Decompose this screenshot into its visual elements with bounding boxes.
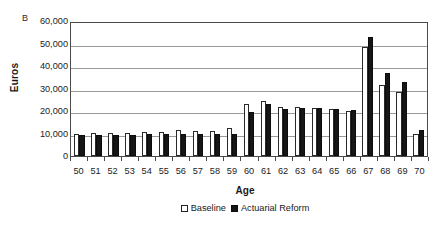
bar-group <box>393 23 410 156</box>
bar-reform <box>317 108 322 156</box>
bar-reform <box>147 134 152 156</box>
x-tick-label: 59 <box>223 163 240 179</box>
bar-reform <box>402 82 407 156</box>
x-tick-label: 51 <box>87 163 104 179</box>
x-tick-mark <box>172 157 173 161</box>
y-tick-label: 20,000 <box>24 107 68 116</box>
x-axis-tick-marks <box>70 157 428 162</box>
y-tick-label: 30,000 <box>24 85 68 94</box>
bar-group <box>139 23 156 156</box>
x-tick-mark <box>155 157 156 161</box>
legend-label: Actuarial Reform <box>241 203 309 213</box>
x-tick-mark <box>223 157 224 161</box>
x-axis-label: Age <box>60 185 430 196</box>
bar-group <box>224 23 241 156</box>
x-tick-mark <box>309 157 310 161</box>
x-tick-label: 56 <box>172 163 189 179</box>
x-tick-mark <box>394 157 395 161</box>
bar-group <box>71 23 88 156</box>
y-tick-label: 50,000 <box>24 40 68 49</box>
x-tick-label: 69 <box>394 163 411 179</box>
bar-reform <box>164 134 169 156</box>
bar-groups <box>71 23 427 156</box>
bar-group <box>342 23 359 156</box>
legend-item: Baseline <box>181 203 226 213</box>
x-tick-mark <box>87 157 88 161</box>
bar-reform <box>300 108 305 156</box>
bar-reform <box>113 135 118 156</box>
bar-group <box>308 23 325 156</box>
chart-legend: BaselineActuarial Reform <box>60 203 430 213</box>
legend-label: Baseline <box>191 203 226 213</box>
bar-reform <box>198 134 203 156</box>
x-tick-mark <box>70 157 71 161</box>
y-tick-label: 60,000 <box>24 17 68 26</box>
bar-group <box>291 23 308 156</box>
x-tick-mark <box>240 157 241 161</box>
bar-group <box>325 23 342 156</box>
bar-group <box>88 23 105 156</box>
open-square-icon <box>181 205 188 212</box>
bar-group <box>274 23 291 156</box>
x-tick-label: 62 <box>275 163 292 179</box>
x-tick-mark <box>411 157 412 161</box>
bar-reform <box>385 73 390 156</box>
bar-reform <box>368 37 373 156</box>
x-tick-mark <box>343 157 344 161</box>
bar-reform <box>232 134 237 156</box>
x-tick-label: 70 <box>411 163 428 179</box>
bar-group <box>410 23 427 156</box>
x-tick-label: 68 <box>377 163 394 179</box>
bar-group <box>359 23 376 156</box>
bar-group <box>257 23 274 156</box>
y-tick-label: 10,000 <box>24 130 68 139</box>
bar-reform <box>351 110 356 156</box>
bar-group <box>156 23 173 156</box>
x-tick-mark <box>428 157 429 161</box>
x-tick-mark <box>292 157 293 161</box>
bar-reform <box>130 135 135 156</box>
plot-area <box>70 22 428 157</box>
x-tick-label: 54 <box>138 163 155 179</box>
x-tick-label: 63 <box>292 163 309 179</box>
bar-reform <box>419 130 424 156</box>
legend-item: Actuarial Reform <box>231 203 309 213</box>
filled-square-icon <box>231 205 238 212</box>
x-tick-label: 52 <box>104 163 121 179</box>
x-tick-mark <box>104 157 105 161</box>
bar-reform <box>266 104 271 156</box>
x-tick-mark <box>275 157 276 161</box>
x-tick-mark <box>360 157 361 161</box>
x-tick-label: 55 <box>155 163 172 179</box>
x-tick-mark <box>326 157 327 161</box>
x-tick-label: 60 <box>240 163 257 179</box>
x-tick-mark <box>189 157 190 161</box>
x-tick-label: 53 <box>121 163 138 179</box>
bar-reform <box>215 134 220 156</box>
x-tick-label: 66 <box>343 163 360 179</box>
x-tick-label: 50 <box>70 163 87 179</box>
x-tick-label: 57 <box>189 163 206 179</box>
x-tick-mark <box>138 157 139 161</box>
bar-group <box>376 23 393 156</box>
bar-group <box>207 23 224 156</box>
x-tick-mark <box>121 157 122 161</box>
bar-reform <box>283 109 288 156</box>
bar-reform <box>249 112 254 156</box>
y-tick-label: 0 <box>24 152 68 161</box>
bar-reform <box>334 109 339 156</box>
y-tick-label: 40,000 <box>24 62 68 71</box>
bar-group <box>122 23 139 156</box>
bar-group <box>241 23 258 156</box>
x-tick-label: 67 <box>360 163 377 179</box>
x-tick-label: 65 <box>326 163 343 179</box>
x-tick-label: 58 <box>206 163 223 179</box>
bar-group <box>105 23 122 156</box>
x-tick-mark <box>377 157 378 161</box>
x-tick-mark <box>206 157 207 161</box>
chart-figure: B Euros 60,00050,00040,00030,00020,00010… <box>0 0 441 225</box>
x-tick-label: 61 <box>258 163 275 179</box>
bar-reform <box>181 134 186 156</box>
x-axis-tick-labels: 5051525354555657585960616263646566676869… <box>70 163 428 179</box>
bar-group <box>173 23 190 156</box>
